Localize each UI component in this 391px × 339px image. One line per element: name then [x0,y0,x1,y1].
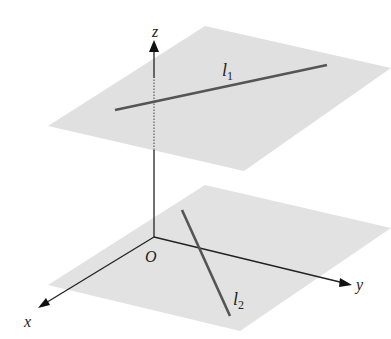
upper-plane [48,26,391,171]
origin-label: O [145,248,157,265]
lower-plane [48,185,391,331]
y-axis-label: y [354,276,364,294]
x-axis-label: x [23,313,31,330]
diagram-canvas: z x y O l1 l2 [0,0,391,339]
diagram-svg: z x y O l1 l2 [0,0,391,339]
y-arrow-icon [339,278,352,287]
z-axis-label: z [151,23,159,40]
x-arrow-icon [38,298,50,308]
z-arrow-icon [149,40,159,52]
